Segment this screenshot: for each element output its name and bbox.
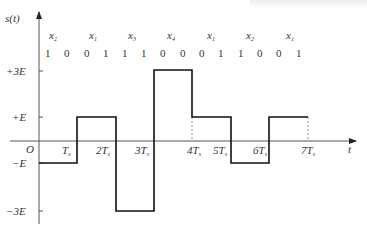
symbol-labels: x2 x1 x3 x4 x1 x2 x1 (48, 29, 294, 42)
svg-text:1: 1 (141, 47, 147, 59)
svg-text:1: 1 (238, 47, 244, 59)
svg-text:0: 0 (257, 47, 263, 59)
svg-text:x2: x2 (245, 29, 254, 42)
svg-text:0: 0 (180, 47, 186, 59)
svg-text:x4: x4 (166, 29, 175, 42)
y-axis-label: s(t) (5, 12, 20, 25)
svg-text:1: 1 (103, 47, 109, 59)
svg-text:3Ts: 3Ts (134, 144, 150, 157)
svg-text:0: 0 (84, 47, 90, 59)
svg-text:0: 0 (199, 47, 205, 59)
x-axis-label: t (348, 143, 352, 155)
tick-label-pE: +E (12, 111, 26, 123)
svg-text:0: 0 (64, 47, 70, 59)
svg-text:2Ts: 2Ts (96, 144, 111, 157)
svg-text:0: 0 (160, 47, 166, 59)
tick-label-p3E: +3E (6, 65, 26, 77)
svg-text:5Ts: 5Ts (213, 144, 228, 157)
svg-text:6Ts: 6Ts (253, 144, 268, 157)
svg-text:x1: x1 (206, 29, 215, 42)
svg-text:x3: x3 (127, 29, 136, 42)
dashed-guides (192, 117, 308, 141)
svg-text:1: 1 (296, 47, 302, 59)
svg-text:1: 1 (122, 47, 128, 59)
svg-text:1: 1 (45, 47, 51, 59)
svg-text:x2: x2 (48, 29, 57, 42)
svg-text:7Ts: 7Ts (301, 144, 316, 157)
bit-labels: 1 0 0 1 1 1 0 0 0 1 1 0 0 1 (45, 47, 302, 59)
4ary-signal-diagram: s(t) +3E +E O −E −3E t Ts 2Ts 3Ts 4Ts 5T… (0, 0, 367, 236)
x-tick-labels: Ts 2Ts 3Ts 4Ts 5Ts 6Ts 7Ts (62, 144, 316, 157)
svg-text:1: 1 (218, 47, 224, 59)
svg-text:0: 0 (276, 47, 282, 59)
tick-label-mE: −E (12, 157, 26, 169)
svg-text:x1: x1 (88, 29, 97, 42)
origin-label: O (26, 143, 34, 155)
svg-text:x1: x1 (285, 29, 294, 42)
svg-text:4Ts: 4Ts (187, 144, 202, 157)
svg-text:Ts: Ts (62, 144, 71, 157)
tick-label-m3E: −3E (6, 205, 26, 217)
